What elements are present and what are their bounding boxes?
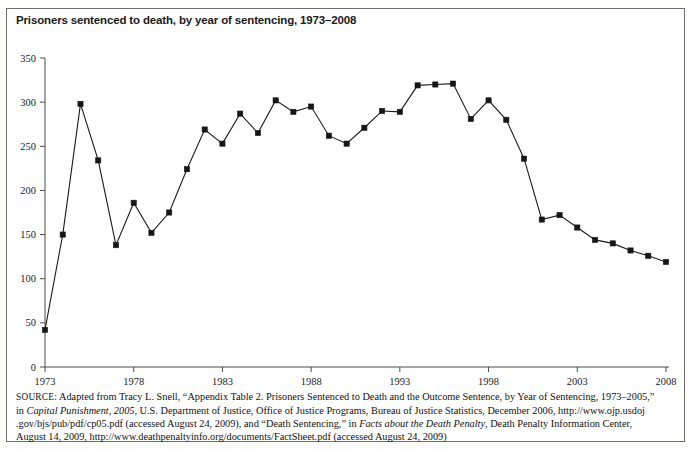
y-tick-label: 100	[20, 273, 36, 284]
data-point-marker	[255, 130, 260, 135]
source-line-2-italic: Capital Punishment, 2005,	[27, 405, 137, 416]
x-axis: 19731978198319881993199820032008	[35, 367, 677, 387]
data-point-marker	[131, 200, 136, 205]
source-line-2: in Capital Punishment, 2005, U.S. Depart…	[16, 404, 674, 417]
source-line-2-a: in	[16, 405, 27, 416]
data-point-marker	[504, 117, 509, 122]
data-point-marker	[78, 101, 83, 106]
data-point-marker	[96, 158, 101, 163]
data-point-marker	[663, 259, 668, 264]
source-note: SOURCE: Adapted from Tracy L. Snell, “Ap…	[16, 390, 674, 443]
data-point-marker	[326, 133, 331, 138]
series-line	[45, 84, 666, 330]
data-point-marker	[646, 253, 651, 258]
data-point-marker	[486, 98, 491, 103]
y-tick-label: 200	[20, 185, 36, 196]
data-point-marker	[575, 225, 580, 230]
x-tick-label: 1983	[212, 376, 233, 387]
data-point-marker	[539, 217, 544, 222]
data-point-marker	[167, 210, 172, 215]
x-tick-label: 2003	[567, 376, 588, 387]
data-point-marker	[113, 243, 118, 248]
chart-plot-area: 050100150200250300350 197319781983198819…	[0, 36, 691, 388]
source-line-3-a: .gov/bjs/pub/pdf/cp05.pdf (accessed Augu…	[16, 418, 359, 429]
data-point-marker	[433, 82, 438, 87]
x-tick-label: 1978	[123, 376, 144, 387]
data-point-marker	[610, 241, 615, 246]
data-point-marker	[42, 327, 47, 332]
y-tick-label: 150	[20, 229, 36, 240]
y-tick-label: 250	[20, 141, 36, 152]
y-axis: 050100150200250300350	[20, 53, 45, 373]
source-line-3: .gov/bjs/pub/pdf/cp05.pdf (accessed Augu…	[16, 417, 674, 430]
y-tick-label: 300	[20, 97, 36, 108]
figure-page: Prisoners sentenced to death, by year of…	[0, 0, 691, 449]
data-point-marker	[450, 81, 455, 86]
x-tick-label: 1988	[301, 376, 322, 387]
data-point-marker	[362, 125, 367, 130]
data-series	[42, 81, 668, 333]
data-point-marker	[628, 248, 633, 253]
data-point-marker	[557, 213, 562, 218]
data-point-marker	[291, 109, 296, 114]
data-point-marker	[202, 127, 207, 132]
source-line-3-italic: Facts about the Death Penalty	[359, 418, 485, 429]
x-tick-label: 1998	[478, 376, 499, 387]
y-tick-label: 350	[20, 53, 36, 64]
source-line-1: SOURCE: Adapted from Tracy L. Snell, “Ap…	[16, 390, 674, 404]
data-point-marker	[273, 98, 278, 103]
x-tick-label: 1973	[35, 376, 56, 387]
source-line-4: August 14, 2009, http://www.deathpenalty…	[16, 430, 674, 443]
source-line-3-b: , Death Penalty Information Center,	[485, 418, 632, 429]
data-point-marker	[521, 156, 526, 161]
data-point-marker	[592, 237, 597, 242]
data-point-marker	[415, 83, 420, 88]
y-tick-label: 0	[31, 362, 36, 373]
data-point-marker	[220, 141, 225, 146]
data-point-marker	[149, 230, 154, 235]
page-title: Prisoners sentenced to death, by year of…	[16, 14, 356, 26]
data-point-marker	[397, 109, 402, 114]
x-tick-label: 2008	[656, 376, 677, 387]
y-tick-label: 50	[26, 317, 37, 328]
source-line-1-text: Adapted from Tracy L. Snell, “Appendix T…	[59, 391, 654, 402]
source-line-2-b: U.S. Department of Justice, Office of Ju…	[137, 405, 645, 416]
data-point-marker	[238, 111, 243, 116]
data-point-marker	[380, 108, 385, 113]
line-chart: 050100150200250300350 197319781983198819…	[0, 36, 691, 388]
data-point-marker	[309, 104, 314, 109]
source-label: SOURCE:	[16, 392, 57, 402]
x-tick-label: 1993	[389, 376, 410, 387]
data-point-marker	[184, 167, 189, 172]
data-point-marker	[344, 141, 349, 146]
data-point-marker	[60, 232, 65, 237]
data-point-marker	[468, 116, 473, 121]
